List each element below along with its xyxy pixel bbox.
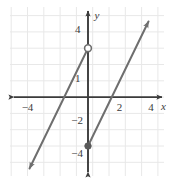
open-point-marker	[85, 45, 92, 52]
y-tick-label-4: 4	[75, 23, 81, 35]
x-tick-label--4: −4	[22, 101, 34, 113]
coordinate-plane-svg: −4 2 4 4 1 −2 −4 x y	[0, 0, 174, 183]
closed-point-marker	[85, 143, 91, 149]
y-tick-label-1: 1	[75, 72, 81, 84]
y-axis-name: y	[94, 9, 100, 21]
figure-background	[0, 0, 174, 183]
x-tick-label-2: 2	[117, 101, 123, 113]
x-axis-name: x	[160, 100, 166, 112]
y-tick-label--2: −2	[71, 114, 83, 126]
graph-figure: −4 2 4 4 1 −2 −4 x y	[0, 0, 174, 183]
y-tick-label--4: −4	[71, 147, 83, 159]
x-tick-label-4: 4	[148, 101, 154, 113]
